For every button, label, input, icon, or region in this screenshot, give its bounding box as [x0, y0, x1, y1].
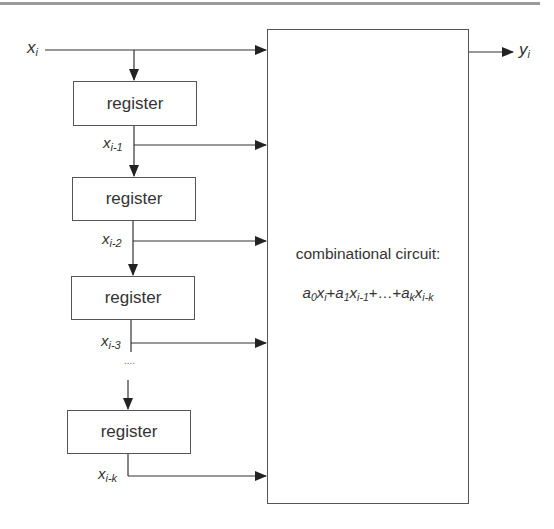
output-label: yi — [519, 40, 530, 60]
ellipsis: .... — [124, 355, 135, 366]
register-1: register — [73, 81, 197, 126]
combinational-equation: a0xi+a1xi-1+…+akxi-k — [268, 284, 468, 303]
signal-label-xi-2: xi-2 — [102, 230, 122, 249]
combinational-circuit-box: combinational circuit: a0xi+a1xi-1+…+akx… — [267, 29, 469, 504]
register-3: register — [71, 276, 195, 320]
register-label: register — [68, 422, 190, 442]
register-label: register — [72, 288, 194, 308]
signal-label-xi-3: xi-3 — [101, 332, 121, 351]
fir-diagram: xi yi register register register registe… — [0, 0, 554, 529]
register-label: register — [74, 93, 196, 113]
signal-label-xi-k: xi-k — [98, 465, 117, 484]
combinational-title: combinational circuit: — [268, 245, 468, 263]
register-k: register — [67, 410, 191, 454]
input-label: xi — [27, 38, 38, 58]
register-label: register — [73, 189, 195, 209]
signal-label-xi-1: xi-1 — [103, 134, 123, 153]
register-2: register — [72, 177, 196, 221]
